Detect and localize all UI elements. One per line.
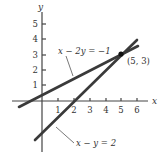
y-tick-label: 5 — [33, 19, 38, 29]
intersection-point-label: (5, 3) — [127, 56, 150, 66]
x-tick-label: 1 — [55, 105, 60, 115]
x-tick-label: 4 — [103, 105, 108, 115]
x-axis-label: x — [152, 96, 157, 106]
leader-line1 — [66, 56, 73, 76]
line1-label: x − 2y = −1 — [58, 46, 111, 56]
x-tick-label: 6 — [134, 105, 139, 115]
y-tick-label: 2 — [33, 65, 38, 75]
line2-label: x − y = 2 — [76, 138, 116, 148]
x-tick-label: 3 — [87, 105, 92, 115]
y-tick-label: 3 — [33, 50, 38, 60]
y-axis-label: y — [37, 2, 44, 12]
y-tick-label: 4 — [33, 34, 38, 44]
x-tick-label: 5 — [118, 105, 123, 115]
leader-line2 — [56, 127, 74, 143]
chart: y x 5 4 3 2 1 1 2 3 4 5 6 x − 2y = −1 x … — [0, 0, 166, 160]
intersection-point-marker — [118, 51, 123, 56]
y-tick-label: 1 — [33, 80, 38, 90]
x-tick-label: 2 — [71, 105, 76, 115]
